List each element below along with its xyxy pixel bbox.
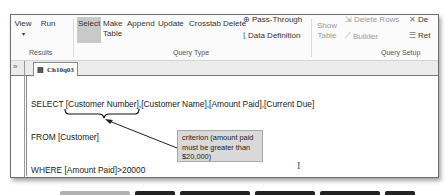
access-window: View ▾ Run Results Select Make Table App… [10,14,439,178]
return-label: Ret [418,31,430,40]
sql-editor[interactable]: SELECT [Customer Number],[Customer Name]… [26,76,437,176]
return-button[interactable]: ☰ Ret [409,31,430,40]
make-table-button[interactable]: Make Table [103,19,125,39]
delete-columns-icon: ✕ [409,15,416,24]
return-icon: ☰ [409,31,416,40]
divider [73,19,74,57]
builder-button[interactable]: ⟋ Builder [345,31,378,41]
delete-rows-icon: ⇲ [345,15,352,24]
data-definition-label: Data Definition [248,31,300,40]
delete-rows-label: Delete Rows [354,15,399,24]
globe-icon: ⊕ [243,15,250,24]
run-button[interactable]: Run [37,19,59,29]
text-cursor-icon: I [297,160,300,171]
table-label: Table [103,29,125,39]
pass-through-button[interactable]: ⊕ Pass-Through [243,15,302,24]
delete-columns-button[interactable]: ✕ De [409,15,428,24]
make-label: Make [103,19,125,29]
append-button[interactable]: Append [127,19,155,29]
chevron-down-icon: ▾ [13,29,33,39]
delete-columns-label: De [418,15,428,24]
builder-wand-icon: ⟋ [345,31,351,41]
cropped-caption-text [0,183,447,195]
query-setup-group-label: Query Setup [381,49,420,56]
nav-pane-border [24,61,25,177]
data-definition-icon: ⌊ [243,31,246,40]
results-group-label: Results [29,49,52,56]
divider [311,19,312,57]
delete-rows-button[interactable]: ⇲ Delete Rows [345,15,399,24]
tab-ch10q03[interactable]: ▤ Ch10q03 [33,62,78,76]
crosstab-button[interactable]: Crosstab [189,19,221,29]
builder-label: Builder [353,32,378,41]
tab-label: Ch10q03 [47,66,74,74]
pass-through-label: Pass-Through [252,15,302,24]
query-icon: ▤ [37,66,44,74]
criterion-callout: criterion (amount paid must be greater t… [177,130,263,162]
select-button[interactable]: Select [77,17,101,43]
data-definition-button[interactable]: ⌊ Data Definition [243,31,300,40]
update-button[interactable]: Update [158,19,184,29]
view-button[interactable]: View ▾ [13,19,33,39]
nav-pane-toggle[interactable]: » [13,62,17,71]
show-label: Show [316,21,338,31]
show-table-button[interactable]: Show Table [316,21,338,41]
ribbon: View ▾ Run Results Select Make Table App… [11,15,438,61]
view-label: View [13,19,33,29]
query-type-group-label: Query Type [173,49,209,56]
table-label: Table [316,31,338,41]
document-tab-bar: » ▤ Ch10q03 [11,61,438,76]
